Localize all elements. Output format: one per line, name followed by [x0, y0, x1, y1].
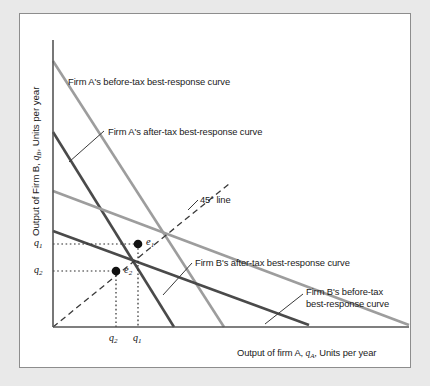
- x-axis-var: qA: [306, 348, 315, 358]
- equilibrium-point-e1: [134, 240, 143, 249]
- x-tick-q1: q1: [133, 332, 142, 345]
- figure-root: Output of Firm B, qB, Units per year Out…: [0, 0, 430, 386]
- figure-panel: Output of Firm B, qB, Units per year Out…: [19, 13, 411, 368]
- y-axis-title: Output of Firm B, qB, Units per year: [30, 87, 43, 236]
- y-axis-var: qB: [30, 151, 41, 160]
- leader-forty-five: [188, 200, 198, 210]
- point-label-e1: e1: [146, 236, 154, 249]
- label-firm-b-before-tax: Firm B's before-tax best-response curve: [306, 286, 424, 310]
- label-firm-a-before-tax: Firm A's before-tax best-response curve: [68, 76, 230, 88]
- y-tick-q1: q1: [34, 237, 43, 250]
- label-firm-b-after-tax: Firm B's after-tax best-response curve: [195, 257, 350, 269]
- label-forty-five-degree: 45° line: [200, 194, 231, 206]
- curve-firm-b-after-tax: [53, 231, 309, 325]
- x-tick-q2: q2: [109, 332, 118, 345]
- leader-firm-b-after-tax: [163, 263, 192, 295]
- label-firm-a-after-tax: Firm A's after-tax best-response curve: [108, 126, 262, 138]
- y-tick-q2: q2: [34, 264, 43, 277]
- plot-area: [20, 14, 410, 367]
- equilibrium-point-e2: [112, 267, 121, 276]
- point-label-e2: e2: [124, 264, 132, 277]
- leader-firm-a-after-tax: [69, 131, 104, 162]
- x-axis-title: Output of firm A, qA, Units per year: [237, 347, 376, 360]
